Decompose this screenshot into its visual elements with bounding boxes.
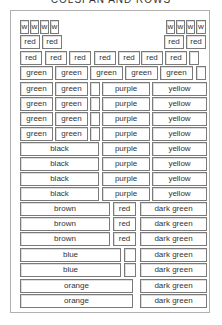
table-cell-green: green <box>125 66 158 80</box>
table-cell-orange: orange <box>20 279 133 293</box>
table-cell-w: w <box>176 20 185 34</box>
table-cell-green: green <box>55 82 88 96</box>
table-cell-empty <box>189 51 199 65</box>
table-cell-yellow: yellow <box>152 187 207 201</box>
table-cell-purple: purple <box>102 157 150 171</box>
table-cell-w: w <box>186 20 195 34</box>
table-cell-empty <box>90 97 100 111</box>
table-cell-red: red <box>113 217 136 231</box>
table-cell-purple: purple <box>102 142 150 156</box>
table-cell-empty <box>90 127 100 141</box>
table-cell-black: black <box>20 142 99 156</box>
table-cell-orange: orange <box>20 294 133 308</box>
table-cell-red: red <box>45 51 67 65</box>
table-cell-yellow: yellow <box>152 172 207 186</box>
table-cell-green: green <box>55 127 88 141</box>
table-cell-yellow: yellow <box>152 127 207 141</box>
table-cell-brown: brown <box>20 202 110 216</box>
table-cell-brown: brown <box>20 217 110 231</box>
table-cell-purple: purple <box>102 112 150 126</box>
table-cell-dark-green: dark green <box>140 279 207 293</box>
table-cell-w: w <box>166 20 175 34</box>
table-cell-empty <box>90 112 100 126</box>
table-cell-w: w <box>30 20 39 34</box>
table-cell-w: w <box>40 20 49 34</box>
table-cell-dark-green: dark green <box>140 248 207 262</box>
table-cell-green: green <box>90 66 123 80</box>
table-cell-blue: blue <box>20 263 121 277</box>
table-cell-red: red <box>42 35 62 49</box>
table-cell-red: red <box>20 51 42 65</box>
table-cell-red: red <box>20 35 40 49</box>
table-cell-yellow: yellow <box>152 97 207 111</box>
table-cell-green: green <box>20 82 53 96</box>
table-cell-black: black <box>20 187 99 201</box>
table-cell-red: red <box>141 51 163 65</box>
table-cell-empty <box>90 82 100 96</box>
table-cell-green: green <box>20 66 53 80</box>
table-cell-w: w <box>50 20 59 34</box>
table-cell-red: red <box>113 202 136 216</box>
table-cell-dark-green: dark green <box>140 217 207 231</box>
table-cell-yellow: yellow <box>152 82 207 96</box>
table-cell-red: red <box>69 51 91 65</box>
table-cell-green: green <box>55 97 88 111</box>
table-cell-red: red <box>186 35 206 49</box>
table-cell-red: red <box>165 51 187 65</box>
table-cell-green: green <box>55 112 88 126</box>
table-cell-purple: purple <box>102 127 150 141</box>
table-cell-black: black <box>20 157 99 171</box>
table-cell-purple: purple <box>102 82 150 96</box>
table-cell-purple: purple <box>102 97 150 111</box>
page-title: COLSPAN AND ROWS <box>0 0 222 5</box>
table-cell-dark-green: dark green <box>140 202 207 216</box>
table-cell-w: w <box>20 20 29 34</box>
table-cell-brown: brown <box>20 232 110 246</box>
table-cell-empty <box>196 66 206 80</box>
table-cell-yellow: yellow <box>152 157 207 171</box>
table-cell-green: green <box>55 66 88 80</box>
table-cell-green: green <box>20 127 53 141</box>
table-cell-empty <box>124 263 136 277</box>
table-cell-purple: purple <box>102 187 150 201</box>
table-cell-purple: purple <box>102 172 150 186</box>
table-cell-red: red <box>118 51 140 65</box>
table-cell-red: red <box>113 232 136 246</box>
table-cell-dark-green: dark green <box>140 294 207 308</box>
table-cell-red: red <box>94 51 116 65</box>
table-cell-blue: blue <box>20 248 121 262</box>
table-cell-red: red <box>164 35 184 49</box>
table-cell-green: green <box>20 97 53 111</box>
table-cell-green: green <box>20 112 53 126</box>
table-cell-dark-green: dark green <box>140 232 207 246</box>
table-cell-black: black <box>20 172 99 186</box>
table-cell-green: green <box>160 66 193 80</box>
table-cell-yellow: yellow <box>152 142 207 156</box>
table-cell-w: w <box>196 20 206 34</box>
table-cell-dark-green: dark green <box>140 263 207 277</box>
table-cell-yellow: yellow <box>152 112 207 126</box>
table-cell-empty <box>124 248 136 262</box>
